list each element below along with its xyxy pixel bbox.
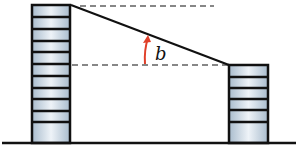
diagram-canvas: b (0, 0, 308, 152)
short-building (229, 65, 268, 143)
angle-label: b (155, 43, 167, 64)
line-of-sight (71, 5, 229, 65)
angle-arrow-icon (143, 35, 151, 64)
tall-building (32, 5, 70, 143)
